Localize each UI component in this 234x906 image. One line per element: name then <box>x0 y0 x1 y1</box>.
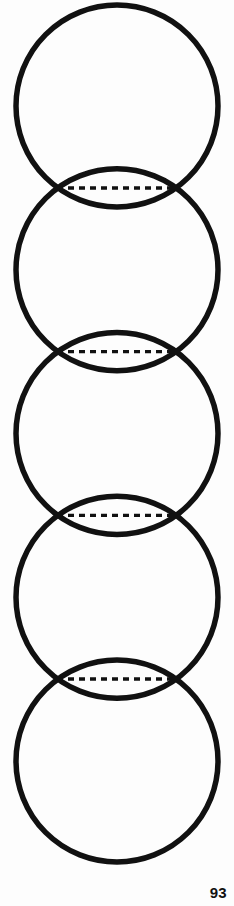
page-background <box>0 0 234 906</box>
worksheet-page: 93 <box>0 0 234 906</box>
circle-chain-figure <box>0 0 234 906</box>
page-number: 93 <box>210 885 227 900</box>
